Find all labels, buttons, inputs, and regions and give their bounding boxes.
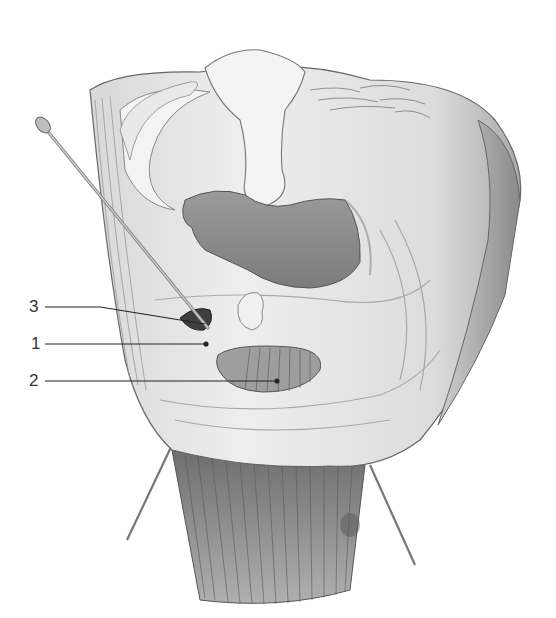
label-3: 3 [29,298,38,315]
anatomical-illustration [0,0,556,618]
muscle-base [172,450,365,604]
label-2: 2 [29,372,38,389]
label-1: 1 [31,335,40,352]
